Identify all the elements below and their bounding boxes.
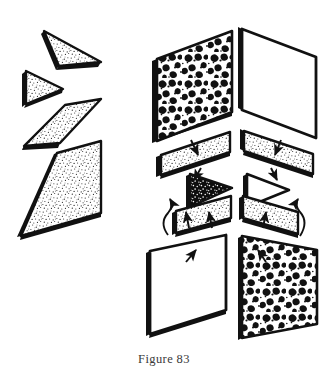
arrow-down-right-mid <box>271 168 277 180</box>
piece-left-large-panel <box>17 141 101 240</box>
piece-panel-front-right-blob <box>238 236 317 340</box>
piece-left-wedge-top <box>41 31 101 70</box>
left-stack-group <box>17 31 101 240</box>
piece-strip-left-upper <box>156 132 230 179</box>
arrow-up-left-curved <box>164 199 172 235</box>
piece-left-triangle <box>22 71 63 108</box>
figure-container: Figure 83 <box>0 0 328 390</box>
right-assembly-group <box>146 27 317 340</box>
piece-panel-front-left-blank <box>146 235 226 338</box>
piece-left-strip <box>22 99 101 150</box>
piece-panel-rear-right-blank <box>238 27 316 138</box>
figure-caption: Figure 83 <box>0 352 328 367</box>
piece-strip-right-lower <box>239 196 298 238</box>
piece-panel-rear-left-mottled <box>152 31 232 143</box>
figure-illustration <box>0 0 328 390</box>
